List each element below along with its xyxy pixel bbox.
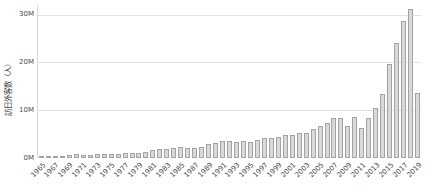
bar-2018 bbox=[408, 9, 413, 158]
y-tick-label-30M: 30M bbox=[0, 10, 34, 19]
bar-2006 bbox=[325, 123, 330, 158]
bar-1973 bbox=[95, 154, 100, 158]
gridline-30M bbox=[38, 15, 421, 16]
bar-1975 bbox=[109, 154, 114, 158]
bar-1996 bbox=[255, 140, 260, 158]
bar-1995 bbox=[248, 142, 253, 158]
bar-1967 bbox=[53, 156, 58, 158]
bar-1994 bbox=[241, 141, 246, 158]
bar-1992 bbox=[227, 141, 232, 158]
bar-1982 bbox=[157, 149, 162, 158]
y-tick-label-10M: 10M bbox=[0, 106, 34, 115]
bar-2001 bbox=[290, 135, 295, 158]
bar-1968 bbox=[60, 156, 65, 158]
plot-area bbox=[38, 0, 421, 158]
visitors-to-japan-bar-chart: 訪日外客数（人） 0M10M20M30M 1965196719691971197… bbox=[0, 0, 426, 188]
bar-2009 bbox=[345, 126, 350, 158]
y-tick-label-0M: 0M bbox=[0, 154, 34, 163]
bar-2008 bbox=[338, 118, 343, 158]
bar-1976 bbox=[116, 154, 121, 158]
bar-2010 bbox=[352, 117, 357, 158]
bar-2003 bbox=[304, 133, 309, 158]
bar-1998 bbox=[269, 138, 274, 158]
bar-1983 bbox=[164, 149, 169, 158]
gridline-10M bbox=[38, 110, 421, 111]
bar-1972 bbox=[88, 155, 93, 158]
bar-1971 bbox=[81, 155, 86, 158]
bar-1984 bbox=[171, 148, 176, 158]
bar-2017 bbox=[401, 21, 406, 158]
bar-2005 bbox=[318, 126, 323, 158]
bar-1985 bbox=[178, 147, 183, 158]
bar-2007 bbox=[331, 118, 336, 158]
bar-1979 bbox=[136, 153, 141, 158]
bar-1980 bbox=[143, 152, 148, 158]
bar-2000 bbox=[283, 135, 288, 158]
bar-1991 bbox=[220, 141, 225, 158]
bar-2016 bbox=[394, 43, 399, 158]
bar-1987 bbox=[192, 148, 197, 158]
y-axis-title: 訪日外客数（人） bbox=[3, 8, 15, 168]
bar-1989 bbox=[206, 144, 211, 158]
bar-1988 bbox=[199, 147, 204, 158]
bar-1978 bbox=[130, 153, 135, 158]
y-tick-label-20M: 20M bbox=[0, 58, 34, 67]
bar-2002 bbox=[297, 133, 302, 158]
bar-1966 bbox=[46, 156, 51, 158]
bar-2004 bbox=[311, 129, 316, 158]
bar-1981 bbox=[150, 150, 155, 158]
bar-1974 bbox=[102, 154, 107, 158]
bar-1990 bbox=[213, 143, 218, 158]
bar-2013 bbox=[373, 108, 378, 158]
bar-1970 bbox=[74, 154, 79, 158]
bar-1999 bbox=[276, 137, 281, 158]
bar-2015 bbox=[387, 64, 392, 158]
bar-1965 bbox=[39, 156, 44, 158]
bar-2012 bbox=[366, 118, 371, 158]
bar-1997 bbox=[262, 138, 267, 158]
bar-2019 bbox=[415, 93, 420, 158]
bar-2014 bbox=[380, 94, 385, 158]
bar-1986 bbox=[185, 148, 190, 158]
bar-1977 bbox=[123, 153, 128, 158]
bar-2011 bbox=[359, 128, 364, 158]
gridline-20M bbox=[38, 62, 421, 63]
bar-1969 bbox=[67, 155, 72, 158]
bar-1993 bbox=[234, 142, 239, 158]
